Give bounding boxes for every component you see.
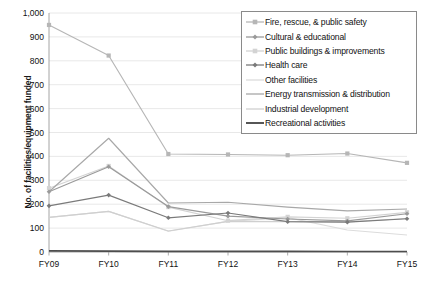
x-tick-label: FY14 [337,259,357,269]
legend-label: Fire, rescue, & public safety [265,17,367,27]
data-point-marker [226,211,231,216]
data-point-marker [253,63,258,68]
x-tick-label: FY09 [39,259,59,269]
data-point-marker [106,193,111,198]
x-tick-label: FY15 [397,259,417,269]
legend-swatch-icon [245,103,265,115]
legend-swatch-icon [245,117,265,129]
data-point-marker [253,20,258,25]
series-recreational-activities [49,251,407,252]
legend-swatch-icon [245,74,265,86]
data-point-marker [226,152,230,156]
data-point-marker [345,151,349,155]
x-tick-label: FY11 [158,259,178,269]
series-line [49,138,407,211]
data-point-marker [285,219,290,224]
legend-item[interactable]: Energy transmission & distribution [245,87,412,101]
legend-swatch-icon [245,59,265,71]
legend-label: Public buildings & improvements [265,46,385,56]
legend-swatch-icon [245,88,265,100]
legend-item[interactable]: Cultural & educational [245,29,412,43]
data-point-marker [286,153,290,157]
legend-label: Energy transmission & distribution [265,89,390,99]
data-point-marker [166,152,170,156]
data-point-marker [166,216,171,221]
data-point-marker [405,161,409,165]
chart-container: No. of facilities/equipment funded 01002… [0,0,422,284]
x-tick-label: FY12 [218,259,238,269]
data-point-marker [253,49,258,54]
x-tick-label: FY10 [98,259,118,269]
data-point-marker [226,219,230,223]
legend-item[interactable]: Public buildings & improvements [245,44,412,58]
x-tick-label: FY13 [277,259,297,269]
legend-item[interactable]: Recreational activities [245,116,412,130]
legend-swatch-icon [245,16,265,28]
legend-swatch-icon [245,45,265,57]
legend-label: Recreational activities [265,118,345,128]
series-line [49,251,407,252]
chart-legend: Fire, rescue, & public safetyCultural & … [241,11,417,134]
legend-item[interactable]: Industrial development [245,101,412,115]
legend-label: Health care [265,60,307,70]
data-point-marker [253,34,258,39]
legend-label: Other facilities [265,75,317,85]
legend-item[interactable]: Fire, rescue, & public safety [245,15,412,29]
legend-swatch-icon [245,31,265,43]
series-energy-transmission-distribution [49,138,407,211]
data-point-marker [47,23,51,27]
legend-label: Industrial development [265,104,348,114]
legend-item[interactable]: Other facilities [245,73,412,87]
legend-label: Cultural & educational [265,32,346,42]
data-point-marker [107,53,111,57]
legend-item[interactable]: Health care [245,58,412,72]
